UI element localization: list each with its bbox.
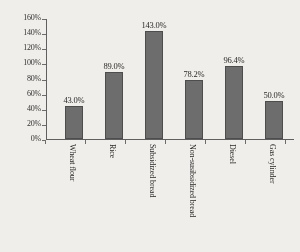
bar-value-label: 96.4% (214, 55, 254, 65)
y-tick-mark (42, 110, 46, 111)
x-tick-mark (245, 140, 246, 144)
y-tick-label: 60% (27, 89, 41, 98)
bar (265, 101, 283, 139)
x-axis-category-label: Diesel (228, 144, 237, 164)
y-tick-mark (42, 64, 46, 65)
bar-value-label: 50.0% (254, 90, 294, 100)
x-tick-mark (285, 140, 286, 144)
x-axis-category-label: Non-susibsidized bread (188, 144, 197, 217)
x-axis-category-label: Rice (108, 144, 117, 158)
bar-value-label: 78.2% (174, 69, 214, 79)
x-tick-mark (165, 140, 166, 144)
x-axis-category-label: Subsidized bread (148, 144, 157, 197)
x-tick-mark (85, 140, 86, 144)
y-tick-label: 0% (31, 134, 41, 143)
bar-value-label: 89.0% (94, 61, 134, 71)
y-tick-label: 120% (23, 43, 41, 52)
x-tick-mark (205, 140, 206, 144)
y-tick-mark (42, 19, 46, 20)
bar-value-label: 43.0% (54, 95, 94, 105)
y-tick-mark (42, 49, 46, 50)
bar-chart-figure: 0%20%40%60%80%100%120%140%160% 43.0%89.0… (0, 0, 300, 252)
y-tick-mark (42, 80, 46, 81)
plot-area: 0%20%40%60%80%100%120%140%160% 43.0%89.0… (46, 19, 294, 140)
y-axis-line (46, 19, 47, 140)
bar-value-label: 143.0% (134, 20, 174, 30)
y-tick-label: 20% (27, 119, 41, 128)
y-tick-label: 40% (27, 104, 41, 113)
y-tick-mark (42, 34, 46, 35)
bar (185, 80, 203, 139)
bar (105, 72, 123, 139)
y-tick-label: 100% (23, 58, 41, 67)
x-axis-category-label: Wheat flour (68, 144, 77, 181)
y-tick-mark (42, 95, 46, 96)
y-tick-label: 80% (27, 74, 41, 83)
y-tick-mark (42, 125, 46, 126)
y-tick-label: 140% (23, 28, 41, 37)
x-axis-category-label: Gas cylinder (268, 144, 277, 183)
bar (225, 66, 243, 139)
x-tick-mark (45, 140, 46, 144)
y-tick-label: 160% (23, 13, 41, 22)
bar (65, 106, 83, 139)
x-axis-line (46, 139, 294, 140)
bar (145, 31, 163, 139)
x-tick-mark (125, 140, 126, 144)
